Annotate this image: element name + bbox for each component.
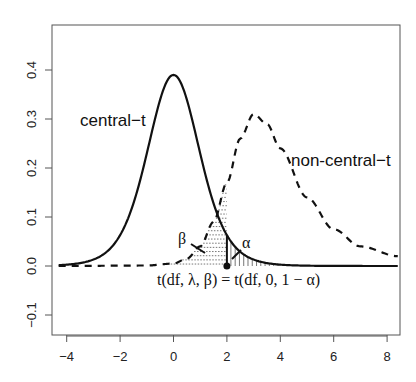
x-axis: −4−202468 [59, 335, 390, 364]
critical-value-equation: t(df, λ, β) = t(df, 0, 1 − α) [157, 271, 320, 289]
y-axis: −0.10.00.10.20.30.4 [24, 61, 52, 328]
chart-canvas: −4−202468 −0.10.00.10.20.30.4 central−t … [0, 0, 416, 382]
y-tick-label: 0.0 [24, 257, 39, 275]
x-tick-label: 6 [330, 349, 337, 364]
y-tick-label: 0.4 [24, 61, 39, 79]
central-t-label: central−t [80, 111, 146, 130]
x-tick-label: 0 [170, 349, 177, 364]
beta-hatch-region [165, 185, 227, 264]
x-tick-label: 4 [277, 349, 284, 364]
y-tick-label: −0.1 [24, 302, 39, 328]
alpha-label: α [242, 234, 251, 251]
y-tick-label: 0.2 [24, 159, 39, 177]
non-central-t-curve [59, 114, 398, 266]
x-tick-label: −4 [59, 349, 74, 364]
y-tick-label: 0.1 [24, 208, 39, 226]
plot-frame [52, 25, 400, 335]
x-tick-label: −2 [113, 349, 128, 364]
x-tick-label: 2 [223, 349, 230, 364]
non-central-t-label: non-central−t [291, 151, 391, 170]
y-tick-label: 0.3 [24, 110, 39, 128]
critical-value-point [223, 263, 230, 270]
beta-label: β [178, 230, 186, 248]
x-tick-label: 8 [383, 349, 390, 364]
